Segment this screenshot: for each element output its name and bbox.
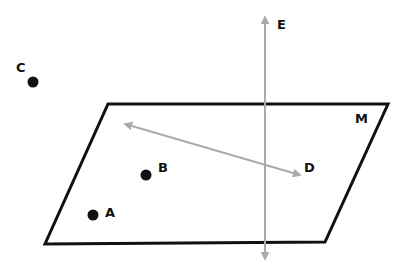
label-c: C: [16, 60, 26, 75]
point-c: [28, 77, 39, 88]
plane-m: [45, 104, 388, 244]
label-b: B: [158, 160, 168, 175]
label-m: M: [355, 111, 368, 126]
point-b: [141, 170, 152, 181]
label-a: A: [105, 205, 115, 220]
geometry-diagram: C E M D B A: [0, 0, 404, 269]
point-a: [88, 210, 99, 221]
line-d-arrow: [125, 124, 300, 175]
label-d: D: [304, 160, 315, 175]
label-e: E: [277, 17, 286, 32]
